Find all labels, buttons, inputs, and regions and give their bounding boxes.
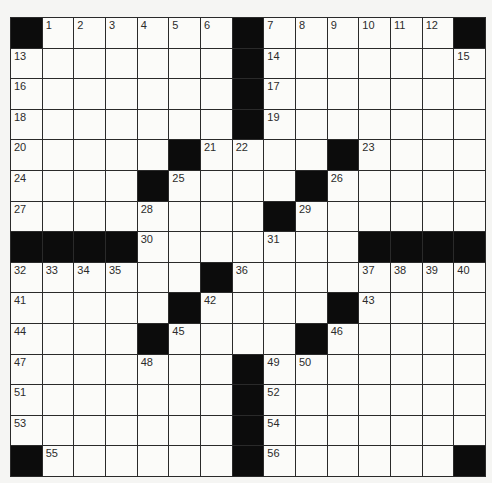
grid-cell[interactable] bbox=[328, 263, 359, 293]
grid-cell[interactable]: 39 bbox=[423, 263, 454, 293]
grid-cell[interactable]: 9 bbox=[328, 18, 359, 48]
grid-cell[interactable] bbox=[43, 385, 74, 415]
grid-cell[interactable] bbox=[264, 293, 295, 323]
grid-cell[interactable] bbox=[74, 49, 105, 79]
grid-cell[interactable]: 19 bbox=[264, 110, 295, 140]
grid-cell[interactable]: 50 bbox=[296, 355, 327, 385]
grid-cell[interactable] bbox=[296, 49, 327, 79]
grid-cell[interactable] bbox=[201, 355, 232, 385]
grid-cell[interactable] bbox=[454, 140, 485, 170]
grid-cell[interactable] bbox=[106, 355, 137, 385]
grid-cell[interactable] bbox=[454, 324, 485, 354]
grid-cell[interactable]: 43 bbox=[359, 293, 390, 323]
grid-cell[interactable]: 53 bbox=[11, 416, 42, 446]
grid-cell[interactable] bbox=[391, 385, 422, 415]
grid-cell[interactable] bbox=[391, 293, 422, 323]
grid-cell[interactable] bbox=[106, 79, 137, 109]
grid-cell[interactable] bbox=[138, 446, 169, 476]
grid-cell[interactable] bbox=[423, 446, 454, 476]
grid-cell[interactable] bbox=[359, 416, 390, 446]
grid-cell[interactable] bbox=[138, 385, 169, 415]
grid-cell[interactable] bbox=[391, 110, 422, 140]
grid-cell[interactable] bbox=[328, 446, 359, 476]
grid-cell[interactable] bbox=[169, 263, 200, 293]
grid-cell[interactable] bbox=[201, 416, 232, 446]
grid-cell[interactable] bbox=[201, 110, 232, 140]
grid-cell[interactable] bbox=[359, 49, 390, 79]
grid-cell[interactable]: 28 bbox=[138, 202, 169, 232]
grid-cell[interactable]: 14 bbox=[264, 49, 295, 79]
grid-cell[interactable]: 13 bbox=[11, 49, 42, 79]
grid-cell[interactable] bbox=[201, 446, 232, 476]
grid-cell[interactable] bbox=[43, 79, 74, 109]
grid-cell[interactable] bbox=[106, 446, 137, 476]
grid-cell[interactable] bbox=[328, 49, 359, 79]
grid-cell[interactable]: 15 bbox=[454, 49, 485, 79]
grid-cell[interactable] bbox=[43, 140, 74, 170]
grid-cell[interactable] bbox=[296, 110, 327, 140]
grid-cell[interactable]: 56 bbox=[264, 446, 295, 476]
grid-cell[interactable] bbox=[74, 110, 105, 140]
grid-cell[interactable] bbox=[169, 79, 200, 109]
grid-cell[interactable] bbox=[264, 324, 295, 354]
grid-cell[interactable] bbox=[43, 416, 74, 446]
grid-cell[interactable] bbox=[169, 446, 200, 476]
grid-cell[interactable] bbox=[454, 385, 485, 415]
grid-cell[interactable] bbox=[169, 110, 200, 140]
grid-cell[interactable] bbox=[296, 232, 327, 262]
grid-cell[interactable]: 25 bbox=[169, 171, 200, 201]
grid-cell[interactable] bbox=[74, 140, 105, 170]
grid-cell[interactable] bbox=[106, 202, 137, 232]
grid-cell[interactable] bbox=[74, 355, 105, 385]
grid-cell[interactable]: 44 bbox=[11, 324, 42, 354]
grid-cell[interactable]: 1 bbox=[43, 18, 74, 48]
grid-cell[interactable] bbox=[138, 263, 169, 293]
grid-cell[interactable]: 11 bbox=[391, 18, 422, 48]
grid-cell[interactable] bbox=[138, 79, 169, 109]
grid-cell[interactable]: 54 bbox=[264, 416, 295, 446]
grid-cell[interactable] bbox=[296, 79, 327, 109]
grid-cell[interactable] bbox=[296, 140, 327, 170]
grid-cell[interactable] bbox=[454, 293, 485, 323]
grid-cell[interactable] bbox=[74, 416, 105, 446]
grid-cell[interactable] bbox=[138, 49, 169, 79]
grid-cell[interactable] bbox=[391, 202, 422, 232]
grid-cell[interactable]: 6 bbox=[201, 18, 232, 48]
grid-cell[interactable] bbox=[454, 171, 485, 201]
grid-cell[interactable] bbox=[359, 110, 390, 140]
grid-cell[interactable] bbox=[359, 385, 390, 415]
grid-cell[interactable] bbox=[74, 293, 105, 323]
grid-cell[interactable]: 52 bbox=[264, 385, 295, 415]
grid-cell[interactable] bbox=[454, 416, 485, 446]
grid-cell[interactable]: 47 bbox=[11, 355, 42, 385]
grid-cell[interactable] bbox=[423, 110, 454, 140]
grid-cell[interactable]: 31 bbox=[264, 232, 295, 262]
grid-cell[interactable]: 40 bbox=[454, 263, 485, 293]
grid-cell[interactable] bbox=[169, 49, 200, 79]
grid-cell[interactable] bbox=[454, 355, 485, 385]
grid-cell[interactable] bbox=[74, 202, 105, 232]
grid-cell[interactable] bbox=[201, 79, 232, 109]
grid-cell[interactable]: 34 bbox=[74, 263, 105, 293]
grid-cell[interactable]: 8 bbox=[296, 18, 327, 48]
grid-cell[interactable] bbox=[43, 355, 74, 385]
grid-cell[interactable] bbox=[43, 110, 74, 140]
grid-cell[interactable] bbox=[106, 293, 137, 323]
grid-cell[interactable] bbox=[391, 416, 422, 446]
grid-cell[interactable] bbox=[296, 446, 327, 476]
grid-cell[interactable] bbox=[454, 110, 485, 140]
grid-cell[interactable] bbox=[106, 171, 137, 201]
grid-cell[interactable] bbox=[328, 110, 359, 140]
grid-cell[interactable] bbox=[359, 171, 390, 201]
grid-cell[interactable] bbox=[106, 385, 137, 415]
grid-cell[interactable] bbox=[296, 385, 327, 415]
grid-cell[interactable] bbox=[201, 385, 232, 415]
grid-cell[interactable] bbox=[454, 79, 485, 109]
grid-cell[interactable]: 2 bbox=[74, 18, 105, 48]
grid-cell[interactable] bbox=[423, 385, 454, 415]
grid-cell[interactable] bbox=[328, 355, 359, 385]
grid-cell[interactable] bbox=[106, 416, 137, 446]
grid-cell[interactable]: 46 bbox=[328, 324, 359, 354]
grid-cell[interactable]: 42 bbox=[201, 293, 232, 323]
grid-cell[interactable] bbox=[233, 293, 264, 323]
